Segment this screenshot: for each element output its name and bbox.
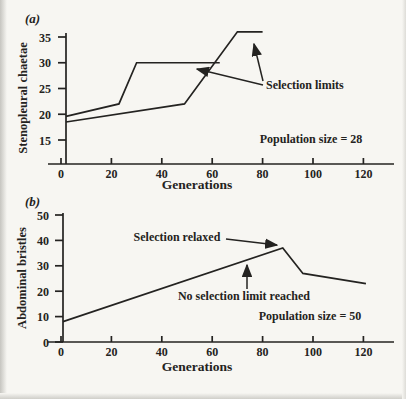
y-tick-label: 20 — [39, 108, 51, 122]
data-line-selection-line-1 — [66, 63, 220, 117]
x-tick-label: 120 — [354, 345, 372, 359]
y-tick-label: 15 — [39, 134, 51, 148]
y-tick-label: 40 — [37, 234, 49, 248]
y-tick-label: 30 — [37, 259, 49, 273]
x-tick-label: 0 — [58, 167, 64, 181]
selection-limits-arrow-lower — [197, 69, 263, 85]
y-tick-label: 20 — [37, 285, 49, 299]
panel-b-x-axis-title: Generations — [162, 359, 233, 374]
population-size-50-annotation: Population size = 50 — [259, 309, 362, 323]
population-size-28-annotation: Population size = 28 — [260, 132, 363, 146]
x-tick-label: 60 — [206, 345, 218, 359]
panel-b-label: (b) — [25, 194, 40, 209]
panel-a-label: (a) — [25, 11, 40, 26]
y-tick-label: 35 — [39, 31, 51, 45]
selection-relaxed-arrow — [226, 239, 277, 245]
selection-limits-annotation: Selection limits — [266, 78, 344, 92]
y-tick-label: 50 — [37, 209, 49, 223]
y-tick-label: 25 — [39, 82, 51, 96]
no-selection-limit-annotation: No selection limit reached — [178, 289, 310, 303]
x-tick-label: 20 — [105, 345, 117, 359]
y-tick-label: 0 — [43, 336, 49, 350]
figure-page: 1520253035020406080100120010203040500204… — [0, 0, 406, 399]
x-tick-label: 120 — [354, 167, 372, 181]
y-tick-label: 10 — [37, 310, 49, 324]
data-line-selection-line-2 — [66, 32, 263, 122]
x-tick-label: 80 — [257, 345, 269, 359]
selection-limits-arrow-upper — [254, 44, 263, 81]
y-tick-label: 30 — [39, 56, 51, 70]
x-tick-label: 0 — [58, 345, 64, 359]
panel-b-y-axis-title: Abdominal bristles — [15, 227, 29, 329]
x-tick-label: 20 — [105, 167, 117, 181]
selection-relaxed-annotation: Selection relaxed — [134, 230, 221, 244]
figure-canvas: 1520253035020406080100120010203040500204… — [0, 0, 406, 399]
x-tick-label: 80 — [257, 167, 269, 181]
x-tick-label: 100 — [304, 167, 322, 181]
panel-a-x-axis-title: Generations — [162, 177, 233, 192]
x-tick-label: 40 — [156, 345, 168, 359]
x-tick-label: 100 — [304, 345, 322, 359]
panel-a-y-axis-title: Stenopleural chaetae — [16, 42, 30, 154]
